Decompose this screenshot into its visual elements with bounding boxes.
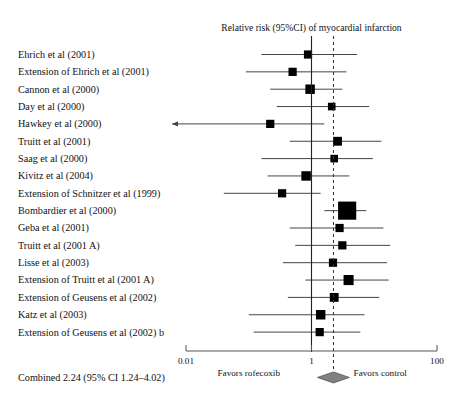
point-estimate-marker	[316, 310, 325, 319]
favors-left-label: Favors rofecoxib	[217, 368, 280, 378]
point-estimate-marker	[278, 189, 286, 197]
point-estimate-marker	[330, 293, 339, 302]
study-label: Truitt et al (2001 A)	[18, 240, 100, 252]
study-label: Extension of Geusens et al (2002) b	[18, 327, 164, 339]
point-estimate-marker	[304, 50, 312, 58]
study-label: Lisse et al (2003)	[18, 257, 89, 269]
study-label: Cannon et al (2000)	[18, 84, 99, 96]
study-label: Saag et al (2000)	[18, 153, 87, 165]
x-tick-label-mid: 1	[309, 356, 314, 366]
point-estimate-marker	[338, 241, 346, 249]
forest-plot: Relative risk (95%CI) of myocardial infa…	[0, 0, 468, 393]
x-tick-label-max: 100	[430, 356, 444, 366]
study-label: Bombardier et al (2000)	[18, 205, 116, 217]
point-estimate-marker	[301, 171, 310, 180]
point-estimate-marker	[289, 68, 297, 76]
point-estimate-marker	[333, 137, 342, 146]
point-estimate-marker	[344, 275, 354, 285]
point-estimate-marker	[335, 224, 343, 232]
plot-title: Relative risk (95%CI) of myocardial infa…	[221, 22, 402, 34]
study-label: Extension of Geusens et al (2002)	[18, 292, 156, 304]
point-estimate-marker	[328, 103, 336, 111]
study-label: Truitt et al (2001)	[18, 136, 90, 148]
study-label: Ehrich et al (2001)	[18, 49, 95, 61]
study-label: Day et al (2000)	[18, 101, 84, 113]
study-label: Hawkey et al (2000)	[18, 118, 101, 130]
study-label: Extension of Ehrich et al (2001)	[18, 66, 149, 78]
study-label: Kivitz et al (2004)	[18, 170, 93, 182]
x-tick-label-min: 0.01	[178, 356, 194, 366]
favors-right-label: Favors control	[354, 368, 408, 378]
point-estimate-marker	[316, 328, 324, 336]
combined-estimate-label: Combined 2.24 (95% CI 1.24–4.02)	[18, 372, 165, 384]
point-estimate-marker	[338, 202, 356, 220]
study-label: Extension of Schnitzer et al (1999)	[18, 188, 160, 200]
point-estimate-marker	[330, 155, 338, 163]
point-estimate-marker	[305, 84, 314, 93]
study-label: Geba et al (2001)	[18, 222, 89, 234]
study-label: Extension of Truitt et al (2001 A)	[18, 274, 154, 286]
study-label: Katz et al (2003)	[18, 309, 87, 321]
point-estimate-marker	[266, 120, 274, 128]
